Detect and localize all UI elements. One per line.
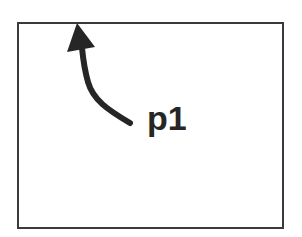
arrow-shaft [82, 48, 130, 123]
point-label: p1 [147, 98, 187, 138]
arrow-head [67, 23, 95, 52]
